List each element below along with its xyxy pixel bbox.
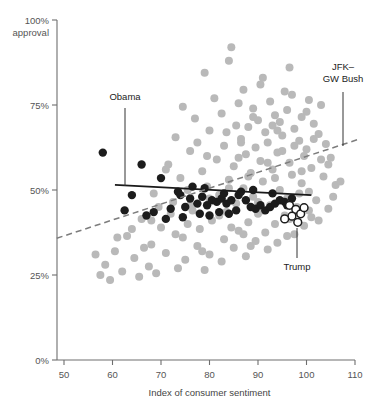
x-tick-label-90: 90 <box>253 369 264 380</box>
data-point-other-presidents <box>307 164 315 172</box>
y-tick-label-75%: 75% <box>30 100 50 111</box>
data-point-other-presidents <box>179 103 187 111</box>
data-point-obama <box>99 148 107 156</box>
data-point-other-presidents <box>327 154 335 162</box>
data-point-other-presidents <box>227 223 235 231</box>
data-point-other-presidents <box>261 229 269 237</box>
data-point-other-presidents <box>145 263 153 271</box>
x-axis-title: Index of consumer sentiment <box>149 387 271 398</box>
data-point-other-presidents <box>290 125 298 133</box>
data-point-obama <box>142 211 150 219</box>
data-point-other-presidents <box>273 127 281 135</box>
data-point-other-presidents <box>256 81 264 89</box>
data-point-other-presidents <box>317 155 325 163</box>
data-point-other-presidents <box>247 242 255 250</box>
data-point-other-presidents <box>249 104 257 112</box>
data-point-obama <box>225 210 233 218</box>
y-tick-label-25%: 25% <box>30 270 50 281</box>
data-point-obama <box>179 213 187 221</box>
data-point-other-presidents <box>162 249 170 257</box>
data-point-other-presidents <box>92 251 100 259</box>
data-point-other-presidents <box>303 145 311 153</box>
data-point-other-presidents <box>307 213 315 221</box>
data-point-obama <box>128 191 136 199</box>
data-point-other-presidents <box>312 196 320 204</box>
data-point-other-presidents <box>184 220 192 228</box>
data-point-other-presidents <box>271 174 279 182</box>
data-point-obama <box>203 201 211 209</box>
data-point-other-presidents <box>206 251 214 259</box>
annotation-label-trump: Trump <box>283 261 310 272</box>
data-point-other-presidents <box>295 189 303 197</box>
data-point-other-presidents <box>203 152 211 160</box>
data-point-other-presidents <box>113 234 121 242</box>
data-point-obama <box>205 211 213 219</box>
data-point-other-presidents <box>196 225 204 233</box>
data-point-other-presidents <box>237 138 245 146</box>
data-point-obama <box>198 193 206 201</box>
data-point-other-presidents <box>225 57 233 65</box>
data-point-other-presidents <box>278 147 286 155</box>
chart-container: 0%25%50%75%100%approval5060708090100110I… <box>0 0 384 412</box>
data-point-obama <box>167 205 175 213</box>
data-point-obama <box>162 215 170 223</box>
data-point-other-presidents <box>283 106 291 114</box>
data-point-other-presidents <box>235 154 243 162</box>
data-point-obama <box>120 206 128 214</box>
data-point-other-presidents <box>130 254 138 262</box>
data-point-other-presidents <box>288 171 296 179</box>
data-point-other-presidents <box>157 223 165 231</box>
data-point-other-presidents <box>310 135 318 143</box>
data-point-other-presidents <box>135 273 143 281</box>
data-point-other-presidents <box>281 87 289 95</box>
data-point-other-presidents <box>298 179 306 187</box>
data-point-other-presidents <box>162 166 170 174</box>
data-point-other-presidents <box>201 266 209 274</box>
data-point-trump <box>300 204 308 212</box>
data-point-other-presidents <box>235 99 243 107</box>
data-point-other-presidents <box>271 220 279 228</box>
data-point-other-presidents <box>324 205 332 213</box>
data-point-other-presidents <box>176 174 184 182</box>
scatter-plot: 0%25%50%75%100%approval5060708090100110I… <box>0 0 384 412</box>
data-point-other-presidents <box>305 96 313 104</box>
data-point-other-presidents <box>123 232 131 240</box>
data-point-other-presidents <box>218 110 226 118</box>
x-tick-label-70: 70 <box>156 369 167 380</box>
x-tick-label-80: 80 <box>204 369 215 380</box>
data-point-other-presidents <box>193 138 201 146</box>
data-point-obama <box>193 199 201 207</box>
data-point-other-presidents <box>206 127 214 135</box>
data-point-other-presidents <box>252 144 260 152</box>
x-tick-label-100: 100 <box>299 369 315 380</box>
data-point-other-presidents <box>186 147 194 155</box>
data-point-other-presidents <box>191 115 199 123</box>
data-point-other-presidents <box>198 167 206 175</box>
y-tick-label-0%: 0% <box>35 355 49 366</box>
data-point-obama <box>181 203 189 211</box>
data-point-other-presidents <box>111 247 119 255</box>
data-point-other-presidents <box>322 140 330 148</box>
data-point-other-presidents <box>317 101 325 109</box>
annotation-label-jfk-gw-bush-line2: GW Bush <box>323 73 364 84</box>
data-point-other-presidents <box>256 157 264 165</box>
data-point-other-presidents <box>264 138 272 146</box>
data-point-other-presidents <box>249 113 257 121</box>
data-point-trump <box>294 218 302 226</box>
data-point-other-presidents <box>128 225 136 233</box>
data-point-other-presidents <box>271 111 279 119</box>
data-point-other-presidents <box>118 268 126 276</box>
data-point-other-presidents <box>150 189 158 197</box>
data-point-other-presidents <box>222 128 230 136</box>
data-point-other-presidents <box>174 264 182 272</box>
data-point-other-presidents <box>101 261 109 269</box>
data-point-other-presidents <box>210 94 218 102</box>
data-point-other-presidents <box>242 150 250 158</box>
data-point-other-presidents <box>336 178 344 186</box>
data-point-other-presidents <box>181 256 189 264</box>
data-point-other-presidents <box>244 123 252 131</box>
data-point-other-presidents <box>288 91 296 99</box>
data-point-obama <box>227 196 235 204</box>
data-point-other-presidents <box>244 172 252 180</box>
data-point-other-presidents <box>329 193 337 201</box>
